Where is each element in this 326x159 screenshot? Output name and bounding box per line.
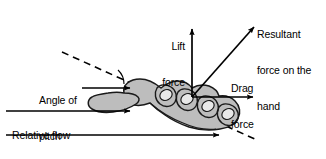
lift-force-label-line2: force: [130, 76, 185, 88]
lift-force-label: Lift force: [130, 16, 185, 112]
drag-force-label-line1: Drag: [231, 82, 281, 94]
relative-flow-label: Relative flow of the water past the hand: [12, 105, 92, 159]
figure-canvas: Lift force Resultant force on the hand D…: [0, 0, 326, 159]
drag-force-label-line2: force: [231, 118, 281, 130]
resultant-force-label-line1: Resultant: [257, 28, 326, 40]
relative-flow-label-line1: Relative flow: [12, 129, 92, 141]
lift-force-label-line1: Lift: [130, 40, 185, 52]
drag-force-label: Drag force: [231, 58, 281, 154]
